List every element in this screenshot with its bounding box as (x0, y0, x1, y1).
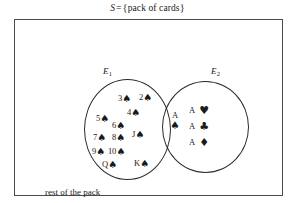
spade-icon: ♠ (116, 146, 125, 157)
set-label-e1-letter: E (103, 66, 109, 76)
set-label-e2-letter: E (211, 66, 217, 76)
card-6-spades: 6♠ (112, 120, 125, 130)
spade-icon: ♠ (131, 107, 140, 118)
spade-icon: ♠ (108, 159, 117, 170)
set-label-e1-subscript: 1 (109, 70, 112, 77)
card-4-spades: 4♠ (127, 107, 140, 117)
spade-icon: ♠ (143, 92, 152, 103)
spade-icon: ♠ (97, 132, 106, 143)
card-ace-spades-intersection: A ♠ (168, 111, 182, 131)
equals-sign: = (115, 3, 122, 13)
set-label-e2-subscript: 2 (217, 70, 220, 77)
spade-icon: ♠ (140, 158, 149, 169)
card-ace-hearts: A♥ (189, 104, 209, 115)
close-brace: } (180, 2, 185, 13)
universe-contents: pack of cards (128, 3, 180, 13)
spade-icon: ♠ (135, 129, 144, 140)
diamond-icon: ♦ (199, 136, 209, 149)
spade-icon: ♠ (116, 132, 125, 143)
spade-icon: ♠ (168, 120, 182, 131)
spade-icon: ♠ (96, 146, 105, 157)
club-icon: ♣ (199, 120, 209, 133)
spade-icon: ♠ (116, 120, 125, 131)
card-8-spades: 8♠ (112, 132, 125, 142)
card-2-spades: 2♠ (139, 92, 152, 102)
universe-rectangle: E1 E2 3♠ 2♠ 4♠ 5♠ 6♠ J♠ 7♠ 8♠ 9♠ 10♠ Q♠ … (14, 19, 283, 196)
card-ace-diamonds: A♦ (189, 136, 209, 147)
card-rank: A (189, 121, 195, 131)
card-9-spades: 9♠ (92, 146, 105, 156)
heart-icon: ♥ (199, 104, 209, 117)
spade-icon: ♠ (122, 93, 131, 104)
set-label-e2: E2 (211, 66, 220, 76)
card-j-spades: J♠ (132, 129, 144, 139)
card-5-spades: 5♠ (96, 113, 109, 123)
card-k-spades: K♠ (134, 158, 149, 168)
card-rank: A (189, 105, 195, 115)
spade-icon: ♠ (100, 113, 109, 124)
card-rank: 10 (108, 146, 116, 156)
card-7-spades: 7♠ (93, 132, 106, 142)
card-3-spades: 3♠ (118, 93, 131, 103)
card-ace-clubs: A♣ (189, 120, 209, 131)
set-label-e1: E1 (103, 66, 112, 76)
card-10-spades: 10♠ (108, 146, 125, 156)
card-rank: A (189, 137, 195, 147)
rest-of-pack-caption: rest of the pack (45, 187, 100, 197)
card-q-spades: Q♠ (102, 159, 117, 169)
universe-title: S={pack of cards} (0, 2, 295, 13)
